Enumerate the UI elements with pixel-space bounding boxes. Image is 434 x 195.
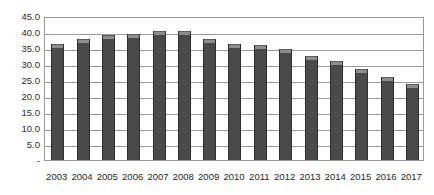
bar-top-highlight: [280, 49, 291, 53]
bar-top-highlight: [103, 35, 114, 39]
y-axis-tick-label: 10.0: [0, 124, 40, 134]
bar: [305, 56, 318, 160]
y-axis-tick-label: 25.0: [0, 76, 40, 86]
bar-top-highlight: [128, 34, 139, 38]
y-axis-tick-label: 20.0: [0, 92, 40, 102]
bar: [381, 77, 394, 160]
bar: [51, 44, 64, 160]
x-axis-tick-label: 2017: [396, 172, 426, 182]
bar-top-highlight: [154, 31, 165, 35]
bar: [102, 35, 115, 160]
bar-top-highlight: [204, 39, 215, 43]
bar-top-highlight: [179, 31, 190, 35]
y-axis-tick-label: 45.0: [0, 12, 40, 22]
bar: [406, 84, 419, 160]
bar: [203, 39, 216, 160]
bar: [127, 34, 140, 160]
bar-top-highlight: [306, 56, 317, 60]
bar-chart: 45.040.035.030.025.020.015.010.05.0- 200…: [0, 0, 434, 195]
y-axis-tick-label: 30.0: [0, 60, 40, 70]
bar: [254, 45, 267, 160]
y-axis-tick-label: 40.0: [0, 28, 40, 38]
bar-top-highlight: [331, 61, 342, 65]
bar-series: [45, 18, 423, 160]
bar-top-highlight: [356, 69, 367, 73]
bar-top-highlight: [78, 39, 89, 43]
bar: [228, 44, 241, 160]
bar: [279, 49, 292, 160]
bar: [355, 69, 368, 160]
bar-top-highlight: [382, 77, 393, 81]
y-axis-tick-label: 5.0: [0, 140, 40, 150]
x-axis: 2003200420052006200720082009201020112012…: [44, 163, 424, 177]
bar: [153, 31, 166, 160]
bar: [77, 39, 90, 160]
bar-top-highlight: [229, 44, 240, 48]
bar-top-highlight: [255, 45, 266, 49]
bar: [330, 61, 343, 160]
plot-area: [44, 17, 424, 161]
bar: [178, 31, 191, 160]
y-axis-tick-label: 35.0: [0, 44, 40, 54]
bar-top-highlight: [407, 84, 418, 88]
bar-top-highlight: [52, 44, 63, 48]
y-axis-tick-label: 15.0: [0, 108, 40, 118]
y-axis-tick-label: -: [0, 156, 40, 166]
